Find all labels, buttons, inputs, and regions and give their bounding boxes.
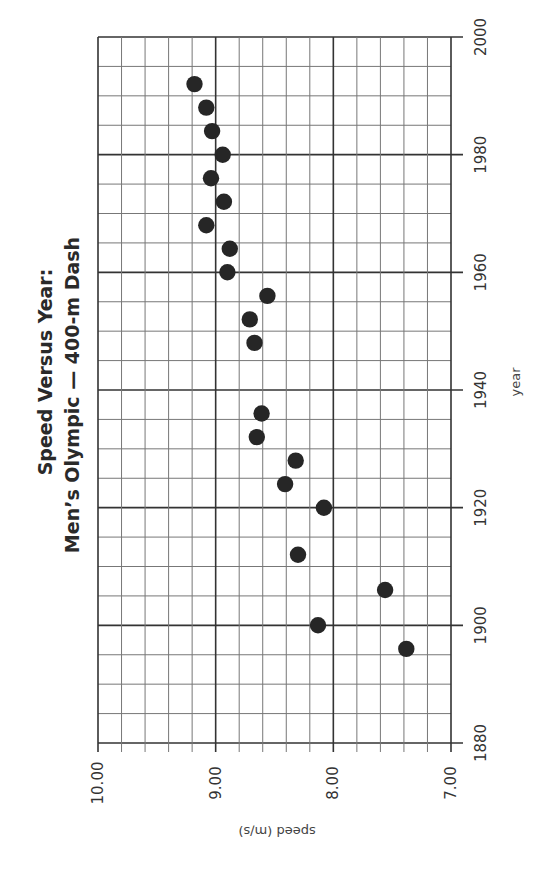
year-tick-label: 1880 [472, 724, 490, 762]
data-point [198, 217, 214, 233]
year-tick-labels: 1880190019201940196019802000 [472, 18, 490, 762]
data-point [219, 264, 235, 280]
scatter-chart: 1880190019201940196019802000 10.009.008.… [0, 0, 546, 871]
data-point [310, 617, 326, 633]
year-tick-label: 1900 [472, 606, 490, 644]
year-tick-label: 1980 [472, 136, 490, 174]
data-point [242, 311, 258, 327]
data-point [377, 582, 393, 598]
x-axis-label-year: year [508, 367, 523, 397]
data-point [198, 99, 214, 115]
speed-tick-labels: 10.009.008.007.00 [89, 762, 460, 805]
chart-subtitle: Men’s Olympic — 400-m Dash [61, 237, 83, 553]
data-point [186, 76, 202, 92]
speed-tick-label: 9.00 [207, 766, 225, 799]
chart-title: Speed Versus Year: [34, 269, 56, 476]
data-point [204, 123, 220, 139]
year-tick-label: 1960 [472, 253, 490, 291]
data-point [253, 405, 269, 421]
data-point [288, 452, 304, 468]
data-point [249, 429, 265, 445]
speed-tick-label: 8.00 [324, 766, 342, 799]
data-point [246, 335, 262, 351]
data-point [316, 500, 332, 516]
data-point [277, 476, 293, 492]
data-point [216, 194, 232, 210]
data-point [398, 641, 414, 657]
speed-tick-label: 7.00 [442, 766, 460, 799]
year-tick-label: 1920 [472, 489, 490, 527]
y-axis-label-speed: speed (m/s) [238, 824, 315, 839]
data-point [290, 547, 306, 563]
data-point [203, 170, 219, 186]
year-tick-label: 2000 [472, 18, 490, 56]
data-point [215, 147, 231, 163]
speed-tick-label: 10.00 [89, 762, 107, 805]
year-tick-label: 1940 [472, 371, 490, 409]
data-point [222, 241, 238, 257]
data-point [259, 288, 275, 304]
